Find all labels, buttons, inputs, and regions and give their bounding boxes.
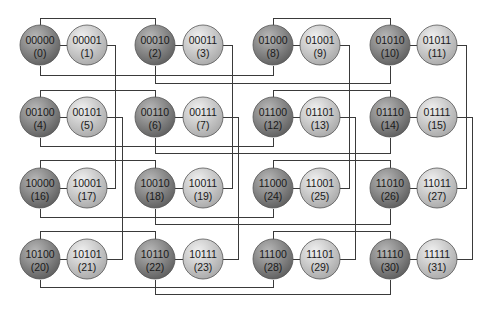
node-bits-label: 00000 <box>25 34 54 46</box>
node-14: 01110(14) <box>370 97 410 137</box>
node-index-label: (31) <box>428 261 447 273</box>
node-index-label: (20) <box>31 261 50 273</box>
node-index-label: (14) <box>381 119 400 131</box>
node-2: 00010(2) <box>135 25 175 65</box>
node-bits-label: 10011 <box>189 177 218 189</box>
edge-12-14 <box>273 91 390 98</box>
node-8: 01000(8) <box>253 25 293 65</box>
node-bits-label: 10010 <box>140 177 169 189</box>
node-index-label: (7) <box>197 119 210 131</box>
node-index-label: (28) <box>264 261 283 273</box>
node-index-label: (25) <box>311 190 330 202</box>
node-index-label: (30) <box>381 261 400 273</box>
node-bits-label: 01111 <box>424 106 451 118</box>
node-index-label: (13) <box>311 119 330 131</box>
node-27: 11011(27) <box>417 168 457 208</box>
node-bits-label: 00010 <box>140 34 169 46</box>
node-19: 10011(19) <box>183 168 223 208</box>
edge-24-26 <box>273 161 390 169</box>
node-index-label: (0) <box>34 47 47 59</box>
node-index-label: (19) <box>194 190 213 202</box>
node-bits-label: 01001 <box>305 34 334 46</box>
node-29: 11101(29) <box>300 239 340 279</box>
node-index-label: (18) <box>146 190 165 202</box>
node-bits-label: 00110 <box>141 106 170 118</box>
node-index-label: (24) <box>264 190 283 202</box>
node-bits-label: 01011 <box>423 34 452 46</box>
node-15: 01111(15) <box>417 97 457 137</box>
node-bits-label: 10001 <box>72 177 101 189</box>
node-9: 01001(9) <box>300 25 340 65</box>
node-16: 10000(16) <box>20 168 60 208</box>
edge-28-30 <box>273 232 390 240</box>
node-index-label: (21) <box>78 261 97 273</box>
node-index-label: (16) <box>31 190 50 202</box>
node-bits-label: 10110 <box>141 248 170 260</box>
node-31: 11111(31) <box>417 239 457 279</box>
node-23: 10111(23) <box>183 239 223 279</box>
node-index-label: (23) <box>194 261 213 273</box>
node-bits-label: 01110 <box>376 106 404 118</box>
node-21: 10101(21) <box>67 239 107 279</box>
edge-4-6 <box>40 91 155 98</box>
node-18: 10010(18) <box>135 168 175 208</box>
node-index-label: (29) <box>311 261 330 273</box>
edge-16-18 <box>40 161 155 169</box>
edge-8-10 <box>273 19 390 26</box>
node-25: 11001(25) <box>300 168 340 208</box>
node-index-label: (6) <box>149 119 162 131</box>
node-index-label: (27) <box>428 190 447 202</box>
node-index-label: (5) <box>81 119 94 131</box>
node-0: 00000(0) <box>20 25 60 65</box>
node-4: 00100(4) <box>20 97 60 137</box>
node-24: 11000(24) <box>253 168 293 208</box>
node-bits-label: 11000 <box>259 177 288 189</box>
node-12: 01100(12) <box>253 97 293 137</box>
node-bits-label: 11110 <box>377 248 404 260</box>
node-bits-label: 11010 <box>376 177 405 189</box>
node-index-label: (22) <box>146 261 165 273</box>
node-6: 00110(6) <box>135 97 175 137</box>
node-28: 11100(28) <box>253 239 293 279</box>
node-bits-label: 11100 <box>259 248 287 260</box>
node-bits-label: 11111 <box>424 248 450 260</box>
node-index-label: (8) <box>267 47 280 59</box>
node-index-label: (15) <box>428 119 447 131</box>
node-index-label: (26) <box>381 190 400 202</box>
node-17: 10001(17) <box>67 168 107 208</box>
node-bits-label: 11101 <box>306 248 334 260</box>
node-13: 01101(13) <box>300 97 340 137</box>
node-index-label: (17) <box>78 190 97 202</box>
hypercube-diagram: 00000(0)00001(1)00010(2)00011(3)01000(8)… <box>0 0 493 310</box>
node-bits-label: 10101 <box>72 248 101 260</box>
node-index-label: (2) <box>149 47 162 59</box>
node-index-label: (4) <box>34 119 47 131</box>
node-bits-label: 00100 <box>25 106 54 118</box>
node-bits-label: 11001 <box>306 177 335 189</box>
node-bits-label: 10111 <box>189 248 217 260</box>
node-bits-label: 01010 <box>375 34 404 46</box>
node-index-label: (3) <box>197 47 210 59</box>
edge-0-2 <box>40 19 155 26</box>
node-bits-label: 00111 <box>189 106 217 118</box>
node-index-label: (10) <box>381 47 400 59</box>
node-30: 11110(30) <box>370 239 410 279</box>
node-index-label: (9) <box>314 47 327 59</box>
node-bits-label: 11011 <box>423 177 451 189</box>
node-index-label: (12) <box>264 119 283 131</box>
node-bits-label: 01100 <box>259 106 288 118</box>
node-26: 11010(26) <box>370 168 410 208</box>
node-20: 10100(20) <box>20 239 60 279</box>
edge-0-8 <box>40 66 273 76</box>
node-bits-label: 00011 <box>189 34 218 46</box>
node-index-label: (11) <box>428 47 446 59</box>
node-bits-label: 00101 <box>72 106 101 118</box>
node-bits-label: 01000 <box>258 34 287 46</box>
node-1: 00001(1) <box>67 25 107 65</box>
node-bits-label: 10100 <box>25 248 54 260</box>
node-11: 01011(11) <box>417 25 457 65</box>
edge-20-28 <box>40 280 273 288</box>
node-index-label: (1) <box>81 47 94 59</box>
node-22: 10110(22) <box>135 239 175 279</box>
edge-20-22 <box>40 232 155 240</box>
